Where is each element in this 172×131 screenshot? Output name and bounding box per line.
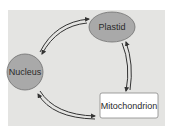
plastid-node: Plastid xyxy=(89,12,135,42)
arrow-mitochondrion-nucleus xyxy=(38,91,95,119)
mitochondrion-node: Mitochondrion xyxy=(100,93,158,118)
mitochondrion-label: Mitochondrion xyxy=(101,101,158,111)
arrow-plastid-mitochondrion xyxy=(122,42,131,91)
arrow-nucleus-plastid xyxy=(40,19,89,54)
nucleus-node: Nucleus xyxy=(7,54,43,90)
organelle-cycle-diagram: Plastid Nucleus Mitochondrion xyxy=(0,0,172,131)
nucleus-label: Nucleus xyxy=(9,67,42,77)
plastid-label: Plastid xyxy=(98,22,125,32)
